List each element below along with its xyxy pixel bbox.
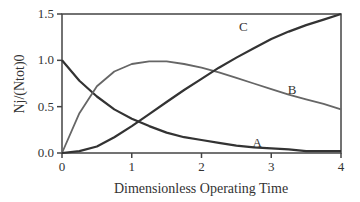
plot-border xyxy=(62,14,341,153)
series-label-b: B xyxy=(288,82,297,97)
y-tick-label: 1.0 xyxy=(38,52,54,67)
plot-frame xyxy=(62,14,341,153)
series-labels: ABC xyxy=(239,19,297,150)
line-chart: 012340.00.51.01.5 ABC Dimensionless Oper… xyxy=(0,0,360,202)
y-tick-label: 0.5 xyxy=(38,99,54,114)
x-tick-label: 2 xyxy=(198,159,205,174)
y-tick-label: 0.0 xyxy=(38,145,54,160)
axis-ticks: 012340.00.51.01.5 xyxy=(38,6,345,174)
x-axis-label: Dimensionless Operating Time xyxy=(114,181,288,196)
series-label-a: A xyxy=(253,135,263,150)
y-axis-label: Nj/(Ntot)0 xyxy=(12,54,28,113)
x-tick-label: 3 xyxy=(268,159,275,174)
x-tick-label: 4 xyxy=(338,159,345,174)
series-label-c: C xyxy=(239,19,248,34)
series-line-a xyxy=(62,60,341,151)
x-tick-label: 1 xyxy=(129,159,136,174)
y-tick-label: 1.5 xyxy=(38,6,54,21)
data-series xyxy=(62,14,341,153)
x-tick-label: 0 xyxy=(59,159,66,174)
series-line-c xyxy=(62,14,341,153)
